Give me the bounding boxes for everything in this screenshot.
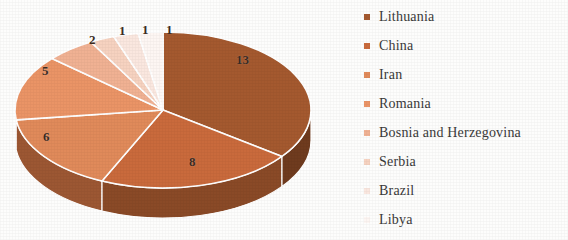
legend-item-label: Romania	[379, 97, 431, 111]
legend-item-label: Serbia	[379, 155, 416, 169]
legend-color-swatch-icon	[364, 130, 370, 136]
slice-data-label-libya: 1	[166, 23, 173, 36]
legend-item-brazil[interactable]: Brazil	[362, 182, 414, 200]
legend-color-swatch-icon	[364, 14, 370, 20]
legend-item-iran[interactable]: Iran	[362, 66, 402, 84]
legend-item-lithuania[interactable]: Lithuania	[362, 8, 434, 26]
legend-item-bosnia-and-herzegovina[interactable]: Bosnia and Herzegovina	[362, 124, 521, 142]
legend-item-china[interactable]: China	[362, 37, 413, 55]
legend-item-label: China	[379, 39, 413, 53]
legend-item-label: Libya	[379, 213, 413, 227]
slice-data-label-china: 8	[189, 155, 196, 168]
slice-data-label-brazil: 1	[142, 23, 149, 36]
slice-data-label-lithuania: 13	[236, 53, 249, 66]
legend-item-label: Brazil	[379, 184, 414, 198]
legend-item-label: Lithuania	[379, 10, 434, 24]
legend-color-swatch-icon	[364, 43, 370, 49]
legend-color-swatch-icon	[364, 72, 370, 78]
chart-legend: LithuaniaChinaIranRomaniaBosnia and Herz…	[362, 0, 568, 240]
legend-color-swatch-icon	[364, 188, 370, 194]
pie-top-slices	[15, 32, 311, 188]
legend-item-serbia[interactable]: Serbia	[362, 153, 416, 171]
slice-data-label-romania: 5	[42, 64, 49, 77]
pie-chart-plot-area: 13 8 6 5 2 1 1 1	[0, 0, 350, 240]
legend-color-swatch-icon	[364, 101, 370, 107]
legend-color-swatch-icon	[364, 159, 370, 165]
legend-item-label: Bosnia and Herzegovina	[379, 126, 521, 140]
slice-data-label-bosnia-and-herzegovina: 2	[89, 33, 96, 46]
pie-chart-figure: 13 8 6 5 2 1 1 1 LithuaniaChinaIranRoman…	[0, 0, 568, 240]
legend-item-romania[interactable]: Romania	[362, 95, 431, 113]
legend-item-label: Iran	[379, 68, 402, 82]
legend-color-swatch-icon	[364, 217, 370, 223]
pie-chart-svg	[0, 0, 350, 240]
slice-data-label-iran: 6	[43, 130, 50, 143]
slice-data-label-serbia: 1	[119, 24, 126, 37]
legend-item-libya[interactable]: Libya	[362, 211, 413, 229]
